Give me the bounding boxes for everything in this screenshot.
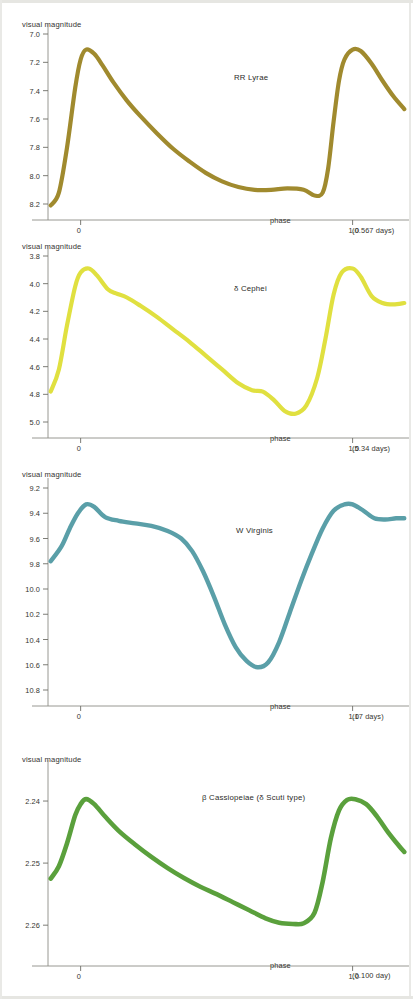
y-tick-label: 3.8 [10,252,40,261]
plot-area-w-virginis [2,462,413,724]
x-tick-label: 0 [77,444,81,453]
y-tick-label: 10.4 [10,636,40,645]
plot-area-delta-cephei [2,238,413,460]
y-tick-label: 7.8 [10,143,40,152]
x-tick-label: 0 [77,972,81,981]
y-tick-label: 7.0 [10,30,40,39]
x-tick-label: 1.0 [349,444,360,453]
y-tick-label: 2.25 [10,859,40,868]
y-tick-label: 4.8 [10,390,40,399]
y-tick-label: 10.8 [10,686,40,695]
y-tick-label: 10.2 [10,610,40,619]
y-tick-label: 8.2 [10,200,40,209]
y-tick-label: 9.6 [10,535,40,544]
y-tick-label: 9.8 [10,560,40,569]
plot-area-rr-lyrae [2,8,413,236]
x-axis-label: phase [270,434,291,443]
y-tick-label: 7.4 [10,87,40,96]
x-tick-label: 0 [77,712,81,721]
light-curve-panel-delta-cephei: visual magnitude δ Cephei phase (5.34 da… [2,238,413,460]
light-curve-panel-w-virginis: visual magnitude W Virginis phase (17 da… [2,462,413,724]
x-tick-label: 0 [77,226,81,235]
y-tick-label: 2.24 [10,797,40,806]
y-tick-label: 4.2 [10,307,40,316]
y-tick-label: 4.4 [10,335,40,344]
y-tick-label: 8.0 [10,172,40,181]
page-top-edge [2,0,413,3]
y-tick-label: 4.0 [10,280,40,289]
plot-area-beta-cassiopeiae [2,726,413,992]
y-tick-label: 7.6 [10,115,40,124]
x-tick-label: 1.0 [349,226,360,235]
x-tick-label: 1.0 [349,972,360,981]
y-tick-label: 9.2 [10,484,40,493]
light-curve-panel-rr-lyrae: visual magnitude RR Lyrae phase (0.567 d… [2,8,413,236]
y-tick-label: 10.6 [10,661,40,670]
x-axis-label: phase [270,961,291,970]
y-tick-label: 9.4 [10,509,40,518]
x-axis-label: phase [270,216,291,225]
y-tick-label: 2.26 [10,921,40,930]
light-curve-panel-beta-cassiopeiae: visual magnitude β Cassiopeiae (δ Scuti … [2,726,413,992]
y-tick-label: 5.0 [10,418,40,427]
y-tick-label: 4.6 [10,363,40,372]
y-tick-label: 7.2 [10,58,40,67]
y-tick-label: 10.0 [10,585,40,594]
x-tick-label: 1.0 [349,712,360,721]
x-axis-label: phase [270,702,291,711]
